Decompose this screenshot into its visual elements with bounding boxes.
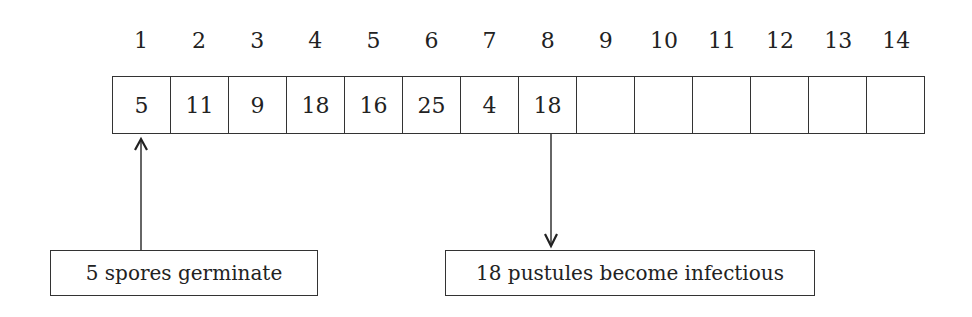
arrow-up-icon <box>135 139 147 250</box>
arrow-down-icon <box>545 134 557 246</box>
annotation-pustules-infectious: 18 pustules become infectious <box>445 250 815 296</box>
annotation-spores-germinate: 5 spores germinate <box>50 250 318 296</box>
